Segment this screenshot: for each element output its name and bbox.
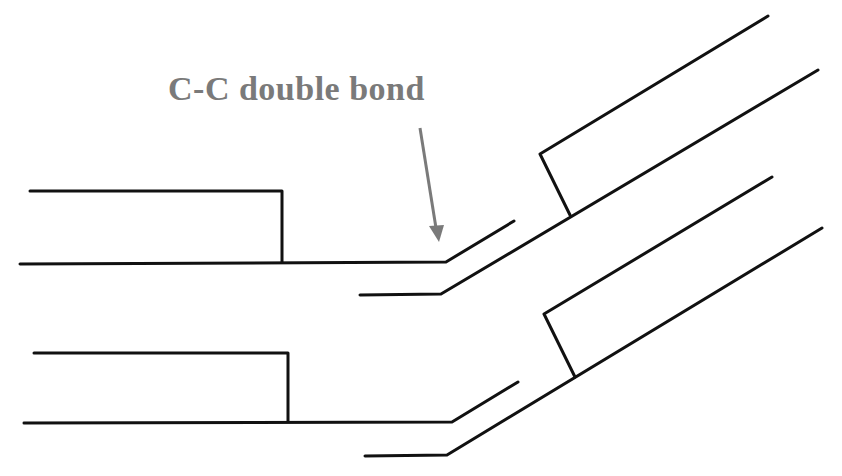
lower-lipid-pair xyxy=(24,177,822,456)
lipid-chain-diagram xyxy=(0,0,842,476)
annotation-arrow xyxy=(420,128,444,242)
upper-lipid-pair xyxy=(20,16,818,295)
